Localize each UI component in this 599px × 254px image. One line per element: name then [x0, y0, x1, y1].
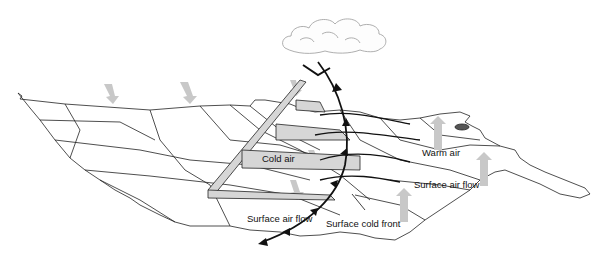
air-flow-arrow [430, 116, 446, 150]
label-warm-air: Warm air [422, 147, 460, 158]
air-flow-arrow [104, 84, 119, 104]
frontal-lines [315, 113, 420, 182]
label-surface-cold-front: Surface cold front [326, 218, 400, 229]
label-cold-air: Cold air [262, 153, 295, 164]
air-flow-arrow [180, 82, 197, 104]
label-surface-air-flow-right: Surface air flow [414, 179, 479, 190]
label-surface-air-flow-left: Surface air flow [247, 213, 312, 224]
cloud-icon [283, 19, 386, 53]
